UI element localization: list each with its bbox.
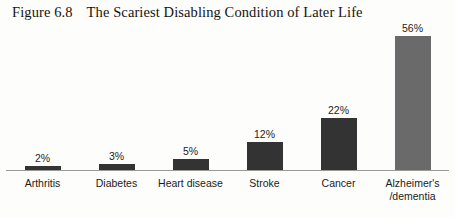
chart-plot-area: 2%3%5%12%22%56% ArthritisDiabetesHeart d… [0, 22, 455, 217]
figure-container: Figure 6.8 The Scariest Disabling Condit… [0, 0, 455, 217]
figure-title: Figure 6.8 The Scariest Disabling Condit… [0, 3, 455, 21]
category-labels-group: ArthritisDiabetesHeart diseaseStrokeCanc… [6, 173, 449, 217]
bar-rect[interactable] [247, 142, 283, 171]
category-label: Alzheimer's/dementia [376, 173, 449, 217]
bar-column[interactable]: 12% [228, 22, 301, 171]
category-label-line: /dementia [376, 190, 449, 203]
bar-column[interactable]: 2% [6, 22, 79, 171]
bars-group: 2%3%5%12%22%56% [6, 22, 449, 171]
bar-column[interactable]: 56% [376, 22, 449, 171]
category-label-line: Heart disease [154, 177, 227, 190]
category-label-line: Alzheimer's [376, 177, 449, 190]
category-label-line: Cancer [302, 177, 375, 190]
category-label-line: Diabetes [80, 177, 153, 190]
category-label: Diabetes [80, 173, 153, 217]
bar-rect[interactable] [321, 118, 357, 171]
bar-column[interactable]: 3% [80, 22, 153, 171]
category-label: Stroke [228, 173, 301, 217]
bar-value-label: 22% [328, 104, 349, 116]
category-label: Heart disease [154, 173, 227, 217]
category-label: Cancer [302, 173, 375, 217]
bar-value-label: 3% [109, 150, 124, 162]
category-label-line: Stroke [228, 177, 301, 190]
category-label: Arthritis [6, 173, 79, 217]
bar-value-label: 56% [402, 22, 423, 34]
bar-column[interactable]: 22% [302, 22, 375, 171]
figure-number: Figure 6.8 [12, 4, 73, 21]
bar-value-label: 5% [183, 145, 198, 157]
category-label-line: Arthritis [6, 177, 79, 190]
bar-column[interactable]: 5% [154, 22, 227, 171]
bar-value-label: 2% [35, 152, 50, 164]
x-axis-line [6, 170, 449, 171]
bar-value-label: 12% [254, 128, 275, 140]
figure-title-text: The Scariest Disabling Condition of Late… [87, 4, 363, 21]
bar-rect[interactable] [395, 36, 431, 171]
